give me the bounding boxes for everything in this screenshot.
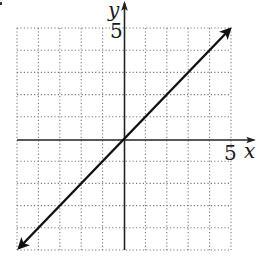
x-tick-label-5: 5 xyxy=(224,141,237,165)
y-tick-label-5: 5 xyxy=(110,19,123,43)
corner-mark xyxy=(0,2,2,5)
x-axis-label: x xyxy=(244,139,255,163)
coordinate-plane-chart: y 5 5 x xyxy=(0,0,263,257)
